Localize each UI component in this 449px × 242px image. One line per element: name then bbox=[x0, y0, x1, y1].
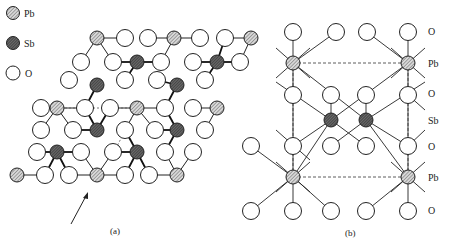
o-atom bbox=[37, 167, 54, 184]
panel-b: O Pb O Sb O Pb O (b) bbox=[243, 24, 439, 239]
o-atom bbox=[285, 138, 302, 155]
legend-label-o: O bbox=[25, 68, 32, 79]
pb-atom bbox=[90, 168, 104, 182]
o-atom bbox=[358, 138, 375, 155]
o-atom bbox=[61, 167, 78, 184]
o-atom bbox=[73, 54, 90, 71]
o-atom bbox=[140, 30, 157, 47]
sb-atom bbox=[90, 123, 104, 137]
layer-label: O bbox=[428, 88, 435, 99]
o-atom bbox=[323, 203, 340, 220]
o-atom bbox=[105, 144, 122, 161]
o-atom bbox=[400, 87, 417, 104]
view-direction-arrow bbox=[71, 192, 88, 224]
o-atom bbox=[285, 87, 302, 104]
panel-b-layer-labels: O Pb O Sb O Pb O bbox=[428, 26, 439, 216]
o-atom bbox=[185, 54, 202, 71]
pb-atom bbox=[170, 168, 184, 182]
o-atom bbox=[243, 138, 260, 155]
pb-atom-icon bbox=[7, 7, 20, 20]
o-atom bbox=[197, 72, 214, 89]
pb-atom bbox=[210, 101, 224, 115]
o-atom bbox=[400, 203, 417, 220]
o-atom bbox=[33, 122, 50, 139]
o-atom bbox=[217, 30, 234, 47]
o-atom bbox=[141, 167, 158, 184]
sb-atom bbox=[170, 78, 184, 92]
crystal-structure-figure: Pb Sb O (a) bbox=[0, 0, 449, 242]
sb-atom bbox=[324, 113, 338, 127]
o-atom bbox=[147, 122, 164, 139]
legend-item-o: O bbox=[6, 66, 32, 80]
o-atom bbox=[232, 54, 249, 71]
o-atom bbox=[358, 203, 375, 220]
panel-b-caption: (b) bbox=[345, 228, 356, 238]
sb-atom bbox=[50, 145, 64, 159]
legend-label-pb: Pb bbox=[24, 8, 35, 19]
pb-atom bbox=[244, 31, 258, 45]
pb-atom bbox=[401, 56, 415, 70]
o-atom bbox=[117, 122, 134, 139]
legend: Pb Sb O bbox=[6, 7, 35, 81]
legend-label-sb: Sb bbox=[24, 38, 35, 49]
o-atom bbox=[243, 203, 260, 220]
o-atom bbox=[197, 122, 214, 139]
o-atom-icon bbox=[6, 66, 20, 80]
panel-a: (a) bbox=[10, 30, 258, 237]
o-atom bbox=[65, 122, 82, 139]
sb-atom bbox=[170, 123, 184, 137]
o-atom bbox=[328, 24, 345, 41]
panel-b-pb-atoms bbox=[286, 56, 415, 184]
o-atom bbox=[33, 100, 50, 117]
layer-label: O bbox=[428, 26, 435, 37]
o-atom bbox=[117, 72, 134, 89]
pb-atom bbox=[10, 168, 24, 182]
o-atom bbox=[102, 100, 119, 117]
panel-b-sb-atoms bbox=[324, 113, 373, 127]
o-atom bbox=[77, 100, 94, 117]
o-atom bbox=[400, 24, 417, 41]
o-atom bbox=[153, 54, 170, 71]
layer-label: O bbox=[428, 141, 435, 152]
o-atom bbox=[149, 72, 166, 89]
pb-atom bbox=[401, 170, 415, 184]
pb-atom bbox=[50, 101, 64, 115]
panel-b-unit-cell bbox=[293, 63, 408, 177]
layer-label: Sb bbox=[428, 115, 439, 126]
panel-a-caption: (a) bbox=[110, 226, 120, 236]
pb-atom bbox=[130, 101, 144, 115]
o-atom bbox=[285, 24, 302, 41]
o-atom bbox=[157, 144, 174, 161]
bond bbox=[276, 82, 331, 120]
pb-atom bbox=[286, 170, 300, 184]
o-atom bbox=[400, 138, 417, 155]
sb-atom bbox=[130, 145, 144, 159]
o-atom bbox=[358, 87, 375, 104]
pb-atom bbox=[90, 31, 104, 45]
o-atom bbox=[117, 30, 134, 47]
pb-atom bbox=[167, 31, 181, 45]
o-atom bbox=[285, 203, 302, 220]
pb-atom bbox=[286, 56, 300, 70]
o-atom bbox=[359, 24, 376, 41]
o-atom bbox=[323, 138, 340, 155]
sb-atom-icon bbox=[7, 37, 20, 50]
o-atom bbox=[105, 54, 122, 71]
o-atom bbox=[117, 167, 134, 184]
o-atom bbox=[73, 144, 90, 161]
layer-label: Pb bbox=[428, 172, 439, 183]
o-atom bbox=[29, 144, 46, 161]
sb-atom bbox=[90, 78, 104, 92]
o-atom bbox=[185, 100, 202, 117]
o-atom bbox=[61, 72, 78, 89]
o-atom bbox=[192, 30, 209, 47]
sb-atom bbox=[130, 55, 144, 69]
o-atom bbox=[185, 144, 202, 161]
sb-atom bbox=[210, 55, 224, 69]
layer-label: Pb bbox=[428, 58, 439, 69]
sb-atom bbox=[359, 113, 373, 127]
legend-item-sb: Sb bbox=[7, 37, 35, 50]
legend-item-pb: Pb bbox=[7, 7, 35, 20]
layer-label: O bbox=[428, 205, 435, 216]
o-atom bbox=[323, 87, 340, 104]
